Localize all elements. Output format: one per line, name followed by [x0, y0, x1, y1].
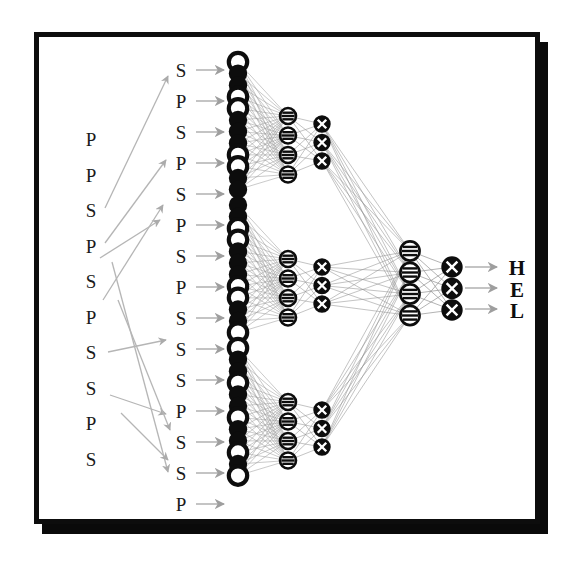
- hidden1-node-0-1: [280, 128, 296, 144]
- hidden2-node-0-2: [314, 153, 329, 168]
- hidden1-node-2-3: [280, 453, 296, 469]
- window-letter-12: S: [172, 433, 190, 452]
- sequence-mapping-arrows: [100, 76, 170, 472]
- outer-letter-8: P: [82, 414, 100, 433]
- window-letter-10: S: [172, 371, 190, 390]
- output-node-2: [442, 300, 461, 319]
- outer-letter-3: P: [82, 237, 100, 256]
- hidden2-node-1-2: [314, 296, 329, 311]
- window-letter-0: S: [172, 61, 190, 80]
- hidden2-node-2-2: [314, 439, 329, 454]
- hidden1-node-1-3: [280, 310, 296, 326]
- window-letter-6: S: [172, 247, 190, 266]
- merge-node-0: [400, 241, 419, 260]
- window-letter-1: P: [172, 92, 190, 111]
- output-arrows: [465, 267, 497, 309]
- hidden2-node-2-1: [314, 421, 329, 436]
- window-letter-7: P: [172, 278, 190, 297]
- hidden1-node-0-3: [280, 167, 296, 183]
- window-letter-9: S: [172, 340, 190, 359]
- hidden1-node-1-0: [280, 251, 296, 267]
- hidden1-node-1-1: [280, 271, 296, 287]
- edges-hidden2-to-merge: [322, 124, 410, 447]
- window-letter-11: P: [172, 402, 190, 421]
- window-letter-14: P: [172, 495, 190, 514]
- merge-node-2: [400, 284, 419, 303]
- hidden2-node-0-0: [314, 116, 329, 131]
- figure-canvas: PPSPSPSSPS SPSPSPSPSSSPSSP HEL: [0, 0, 584, 573]
- outer-letter-9: S: [82, 450, 100, 469]
- outer-letter-4: S: [82, 272, 100, 291]
- hidden1-node-0-2: [280, 147, 296, 163]
- outer-letter-6: S: [82, 343, 100, 362]
- outer-letter-5: P: [82, 308, 100, 327]
- output-letter-2: L: [508, 301, 526, 322]
- output-node-0: [442, 257, 461, 276]
- outer-letter-1: P: [82, 166, 100, 185]
- outer-letter-7: S: [82, 379, 100, 398]
- window-letter-8: S: [172, 309, 190, 328]
- outer-letter-0: P: [82, 130, 100, 149]
- input-node-2-11: [229, 466, 247, 484]
- hidden1-node-2-1: [280, 414, 296, 430]
- hidden1-node-0-0: [280, 108, 296, 124]
- window-letter-2: S: [172, 123, 190, 142]
- outer-letter-2: S: [82, 201, 100, 220]
- window-letter-13: S: [172, 464, 190, 483]
- hidden2-node-0-1: [314, 135, 329, 150]
- merge-node-3: [400, 306, 419, 325]
- hidden2-node-1-0: [314, 259, 329, 274]
- hidden1-node-2-0: [280, 394, 296, 410]
- window-letter-3: P: [172, 154, 190, 173]
- merge-node-1: [400, 263, 419, 282]
- output-letter-1: E: [508, 280, 526, 301]
- hidden1-node-2-2: [280, 433, 296, 449]
- window-letter-5: P: [172, 216, 190, 235]
- output-letter-0: H: [508, 258, 526, 279]
- input-feed-arrows: [196, 70, 224, 504]
- window-letter-4: S: [172, 185, 190, 204]
- hidden2-node-2-0: [314, 402, 329, 417]
- hidden2-node-1-1: [314, 278, 329, 293]
- hidden1-node-1-2: [280, 290, 296, 306]
- output-node-1: [442, 279, 461, 298]
